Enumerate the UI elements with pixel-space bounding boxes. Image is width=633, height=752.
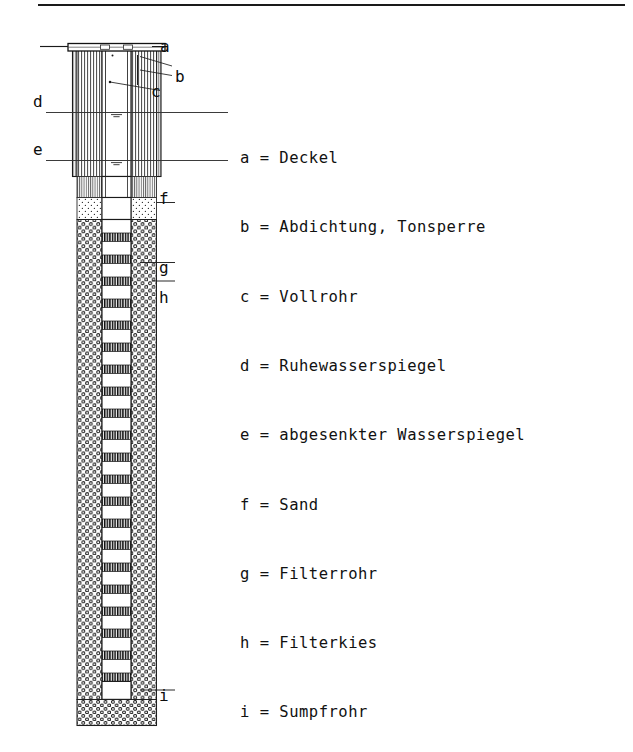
legend-item-c: c = Vollrohr xyxy=(240,286,525,309)
bottom-gravel-fill xyxy=(77,700,157,726)
casing-transition-pipe xyxy=(102,177,131,198)
upper-borehole-section xyxy=(40,44,228,177)
legend-text-a: a = Deckel xyxy=(240,149,338,167)
callout-f: f xyxy=(159,191,169,207)
callout-d: d xyxy=(33,94,43,110)
sand-right xyxy=(131,198,157,220)
legend-text-h: h = Filterkies xyxy=(240,634,378,652)
legend: a = Deckel b = Abdichtung, Tonsperre c =… xyxy=(240,101,525,752)
legend-text-e: e = abgesenkter Wasserspiegel xyxy=(240,426,525,444)
legend-text-g: g = Filterrohr xyxy=(240,565,378,583)
legend-item-e: e = abgesenkter Wasserspiegel xyxy=(240,424,525,447)
callout-a: a xyxy=(160,39,170,55)
legend-item-h: h = Filterkies xyxy=(240,632,525,655)
annulus-left-transition xyxy=(77,177,102,198)
callout-b: b xyxy=(175,69,185,85)
casing-transition xyxy=(77,177,157,198)
legend-text-b: b = Abdichtung, Tonsperre xyxy=(240,218,486,236)
screen-slot-bands xyxy=(103,233,131,681)
legend-item-g: g = Filterrohr xyxy=(240,563,525,586)
annulus-right-transition xyxy=(131,177,157,198)
pipe-at-sand xyxy=(102,198,131,220)
figure-canvas: a b c d e f g h i a = Deckel b = Abdicht… xyxy=(0,0,633,752)
borehole-wall-right xyxy=(157,51,162,177)
callout-i: i xyxy=(159,688,169,704)
legend-item-a: a = Deckel xyxy=(240,147,525,170)
borehole-bottom xyxy=(77,700,157,726)
screen-pipe-filterrohr xyxy=(102,220,131,675)
legend-text-f: f = Sand xyxy=(240,496,319,514)
clay-seal-left xyxy=(77,51,102,177)
callout-h: h xyxy=(159,290,169,306)
callout-e: e xyxy=(33,142,43,158)
legend-item-i: i = Sumpfrohr xyxy=(240,701,525,724)
legend-item-f: f = Sand xyxy=(240,494,525,517)
legend-text-i: i = Sumpfrohr xyxy=(240,703,368,721)
borehole-wall-left xyxy=(73,51,78,177)
legend-text-c: c = Vollrohr xyxy=(240,288,358,306)
legend-item-d: d = Ruhewasserspiegel xyxy=(240,355,525,378)
clay-seal-right xyxy=(131,51,157,177)
plain-casing-vollrohr xyxy=(102,51,131,177)
legend-text-d: d = Ruhewasserspiegel xyxy=(240,357,446,375)
gravel-pack-left-filterkies xyxy=(77,220,102,700)
sump-pipe-sumpfrohr xyxy=(102,681,131,699)
legend-item-b: b = Abdichtung, Tonsperre xyxy=(240,216,525,239)
sand-left xyxy=(77,198,102,220)
gravel-pack-right-filterkies xyxy=(131,220,157,700)
callout-c: c xyxy=(151,84,161,100)
callout-g: g xyxy=(159,260,169,276)
